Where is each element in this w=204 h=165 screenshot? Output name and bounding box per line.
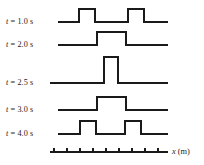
time-value-text: = 3.0 s: [8, 105, 33, 114]
time-value-text: = 2.0 s: [8, 40, 33, 49]
x-axis-unit-text: (m): [176, 147, 190, 156]
row-label-t-2: t = 2.0 s: [6, 40, 33, 49]
time-value-text: = 1.0 s: [8, 17, 33, 26]
time-value-text: = 2.5 s: [8, 78, 33, 87]
row-label-t-3: t = 3.0 s: [6, 105, 33, 114]
waveform-trace-row-4: [58, 97, 168, 110]
wave-pulse-superposition-figure: t = 1.0 s t = 2.0 s t = 2.5 s t = 3.0 s …: [0, 0, 204, 165]
waveform-trace-row-2: [58, 32, 168, 45]
row-label-t-1: t = 1.0 s: [6, 17, 33, 26]
row-label-t-4: t = 4.0 s: [6, 129, 33, 138]
waveform-trace-row-5: [58, 121, 168, 134]
waveform-trace-row-3: [50, 57, 168, 83]
waveform-trace-row-1: [58, 9, 168, 22]
time-value-text: = 4.0 s: [8, 129, 33, 138]
row-label-t-2-5: t = 2.5 s: [6, 78, 33, 87]
x-axis-label: x (m): [172, 147, 190, 156]
